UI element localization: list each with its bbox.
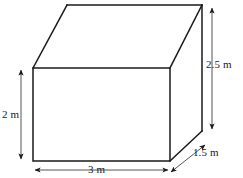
dimension-label-width-bottom: 3 m <box>88 164 105 175</box>
prism-front-face <box>33 68 170 161</box>
dimension-label-height-left: 2 m <box>2 109 19 120</box>
dimension-label-height-right: 2.5 m <box>206 59 232 70</box>
prism-diagram-figure: 2 m 3 m 2.5 m 1.5 m <box>0 0 243 178</box>
prism-body <box>33 5 202 161</box>
dimension-label-depth-right: 1.5 m <box>193 147 219 158</box>
